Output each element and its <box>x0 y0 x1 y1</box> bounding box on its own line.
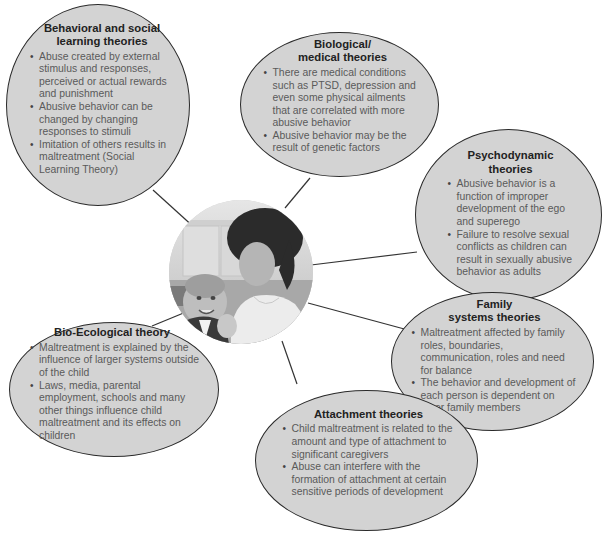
node-title: Attachment theories <box>314 408 423 422</box>
node-behavioral-social-learning: Behavioral and social learning theories … <box>6 4 190 206</box>
node-bullets: Abusive behavior is a function of improp… <box>448 178 574 279</box>
bullet-item: Laws, media, parental employment, school… <box>30 380 202 443</box>
node-attachment: Attachment theories Child maltreatment i… <box>255 390 478 531</box>
connector-bioecological <box>152 312 186 326</box>
bullet-item: Imitation of others results in maltreatm… <box>30 139 174 177</box>
node-psychodynamic: Psychodynamic theories Abusive behavior … <box>415 129 602 301</box>
bullet-item: Abusive behavior may be the result of ge… <box>264 130 422 155</box>
connector-attachment <box>282 341 297 384</box>
bullet-item: Maltreatment is explained by the influen… <box>30 342 202 380</box>
node-bio-ecological: Bio-Ecological theory Maltreatment is ex… <box>9 322 219 457</box>
bullet-item: Abusive behavior is a function of improp… <box>448 178 574 228</box>
node-bullets: Maltreatment is explained by the influen… <box>30 342 202 443</box>
bullet-item: Abusive behavior can be changed by chang… <box>30 101 174 139</box>
bullet-item: There are medical conditions such as PTS… <box>264 67 422 130</box>
node-title: Behavioral and social learning theories <box>44 22 160 49</box>
node-title: Psychodynamic theories <box>467 149 553 176</box>
node-title: Family systems theories <box>448 298 540 325</box>
node-bullets: There are medical conditions such as PTS… <box>264 67 422 155</box>
bullet-item: Maltreatment affected by family roles, b… <box>412 327 578 377</box>
connector-biological <box>285 178 310 208</box>
mother-and-baby-illustration <box>169 200 313 344</box>
bullet-item: Child maltreatment is related to the amo… <box>283 423 455 461</box>
node-bullets: Child maltreatment is related to the amo… <box>283 423 455 499</box>
bullet-item: Abuse created by external stimulus and r… <box>30 51 174 101</box>
node-bullets: Maltreatment affected by family roles, b… <box>412 327 578 415</box>
connector-psychodynamic <box>311 252 417 265</box>
center-photo <box>169 200 313 344</box>
connector-family <box>308 303 408 330</box>
node-biological-medical: Biological/ medical theories There are m… <box>240 32 439 177</box>
bullet-item: Failure to resolve sexual conflicts as c… <box>448 229 574 279</box>
node-bullets: Abuse created by external stimulus and r… <box>30 51 174 177</box>
bullet-item: Abuse can interfere with the formation o… <box>283 461 455 499</box>
node-title: Bio-Ecological theory <box>54 326 170 340</box>
node-title: Biological/ medical theories <box>298 38 387 65</box>
